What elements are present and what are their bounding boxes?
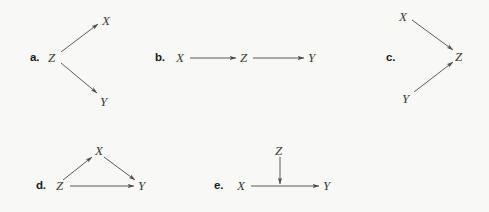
edge-d-z-to-x [63, 157, 92, 180]
node-label-b-z: Z [240, 50, 247, 66]
node-label-a-y: Y [100, 94, 107, 110]
edge-c-x-to-z [412, 20, 453, 50]
node-label-d-x: X [95, 143, 103, 159]
panel-letter-d: d. [36, 179, 46, 191]
node-label-b-x: X [176, 50, 184, 66]
node-label-d-y: Y [138, 178, 145, 194]
node-label-a-z: Z [48, 50, 55, 66]
panel-letter-c: c. [386, 51, 395, 63]
node-label-e-z: Z [275, 143, 282, 159]
node-label-c-x: X [399, 9, 407, 25]
panel-letter-b: b. [155, 51, 165, 63]
edge-a-z-to-y [61, 63, 97, 93]
node-label-e-x: X [237, 178, 245, 194]
node-label-b-y: Y [308, 50, 315, 66]
node-label-d-z: Z [56, 178, 63, 194]
causal-diagram-figure: a.ZXYb.XZYc.XZYd.ZXYe.XZY [0, 0, 489, 212]
edge-layer [61, 20, 453, 186]
node-label-c-z: Z [455, 49, 462, 65]
panel-letter-a: a. [30, 51, 39, 63]
node-label-a-x: X [102, 13, 110, 29]
node-label-e-y: Y [323, 178, 330, 194]
edge-a-z-to-x [61, 24, 98, 52]
edge-d-x-to-y [104, 157, 135, 180]
node-label-c-y: Y [402, 91, 409, 107]
panel-letter-e: e. [214, 179, 223, 191]
edge-c-y-to-z [414, 62, 453, 92]
